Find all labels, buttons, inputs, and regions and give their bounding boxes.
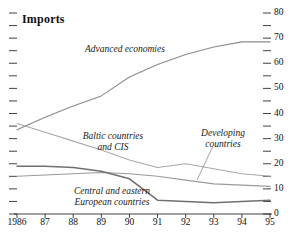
series-label-baltic-cis: Baltic countries and CIS <box>76 131 150 152</box>
y-tick-label: 10 <box>274 183 284 193</box>
y-tick-label: 50 <box>274 82 284 92</box>
page-title: Imports <box>22 12 65 27</box>
series-label-developing-line1: Developing <box>201 128 245 138</box>
annotation-leader-lines <box>197 146 213 180</box>
y-tick-label: 60 <box>274 57 284 67</box>
y-tick-label: 70 <box>274 32 284 42</box>
series-label-baltic-line2: and CIS <box>98 142 129 152</box>
y-tick-label: 40 <box>274 108 284 118</box>
series-label-central-eastern-europe: Central and eastern European countries <box>62 186 162 207</box>
series-label-cee-line2: European countries <box>75 197 150 207</box>
y-tick-label: 80 <box>274 7 284 17</box>
imports-line-chart: Imports Advanced economies Baltic countr… <box>0 0 293 235</box>
series-label-cee-line1: Central and eastern <box>74 186 150 196</box>
y-tick-label: 20 <box>274 158 284 168</box>
series-label-baltic-line1: Baltic countries <box>83 131 143 141</box>
series-label-developing-countries: Developing countries <box>192 128 254 149</box>
x-tick-label: 95 <box>254 217 286 227</box>
y-tick-label: 30 <box>274 133 284 143</box>
series-label-developing-line2: countries <box>205 139 240 149</box>
series-label-advanced-economies: Advanced economies <box>85 44 165 55</box>
data-series-group <box>17 42 270 203</box>
